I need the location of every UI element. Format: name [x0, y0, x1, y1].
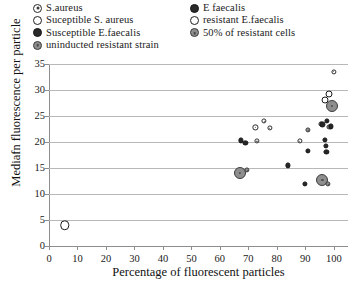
x-tick-label: 60	[215, 254, 226, 265]
legend-item: uninducted resistant strain	[33, 39, 159, 51]
y-tick-mark	[45, 116, 49, 117]
data-point	[326, 100, 338, 112]
legend-column-right: E faecalisresistant E.faecalis 50% of re…	[190, 2, 295, 39]
y-tick-mark	[45, 168, 49, 169]
ring-dot-marker-icon	[33, 4, 42, 13]
x-axis-line	[49, 246, 348, 247]
legend-item: 50% of resistant cells	[190, 27, 295, 39]
data-point	[244, 167, 249, 172]
data-point	[323, 144, 328, 149]
data-point	[328, 124, 333, 129]
gridline	[49, 90, 348, 91]
y-tick-label: 35	[35, 59, 46, 70]
legend-item: Suceptible S. aureus	[33, 14, 159, 26]
y-tick-label: 10	[35, 189, 46, 200]
y-tick-label: 15	[35, 163, 46, 174]
legend-item-label: uninducted resistant strain	[46, 40, 159, 51]
data-point	[306, 148, 311, 153]
y-axis-title: Mediafn fluorescence per particle	[10, 3, 23, 203]
legend-item-label: S.aureus	[46, 3, 83, 14]
x-tick-label: 0	[46, 254, 51, 265]
x-tick-label: 80	[272, 254, 283, 265]
legend-item: E faecalis	[190, 2, 295, 14]
gridline	[49, 220, 348, 221]
data-point	[253, 125, 258, 130]
data-point	[324, 118, 329, 123]
data-point	[60, 220, 70, 230]
gridline	[49, 64, 348, 65]
data-point	[331, 69, 336, 74]
legend-column-left: S.aureusSuceptible S. aureusSusceptible …	[33, 2, 159, 52]
data-point	[324, 149, 329, 154]
legend-item: Susceptible E.faecalis	[33, 27, 159, 39]
gridline	[49, 142, 348, 143]
chart-legend: S.aureusSuceptible S. aureusSusceptible …	[0, 0, 359, 56]
gray-marker-icon	[33, 41, 42, 50]
y-tick-mark	[45, 64, 49, 65]
data-point	[303, 181, 308, 186]
data-point	[267, 125, 272, 130]
data-point	[326, 90, 333, 97]
x-tick-label: 20	[101, 254, 112, 265]
x-tick-label: 90	[300, 254, 311, 265]
y-axis-tick-labels: 05101520253035	[20, 64, 45, 247]
y-tick-label: 30	[35, 85, 46, 96]
gray-marker-icon	[190, 28, 199, 37]
x-tick-label: 10	[72, 254, 83, 265]
y-tick-mark	[45, 220, 49, 221]
x-tick-label: 40	[158, 254, 169, 265]
x-tick-label: 100	[326, 254, 342, 265]
y-tick-mark	[45, 194, 49, 195]
legend-item-label: E faecalis	[203, 3, 245, 14]
data-point	[306, 127, 311, 132]
legend-item-label: Suceptible S. aureus	[46, 15, 133, 26]
legend-item: resistant E.faecalis	[190, 14, 295, 26]
data-point	[325, 182, 330, 187]
plot-area	[49, 64, 348, 246]
x-axis-title: Percentage of fluorescent particles	[49, 266, 348, 279]
data-point	[261, 119, 266, 124]
x-tick-label: 50	[186, 254, 197, 265]
gridline	[49, 194, 348, 195]
y-tick-mark	[45, 142, 49, 143]
legend-item: S.aureus	[33, 2, 159, 14]
hollow-marker-icon	[190, 16, 199, 25]
x-tick-label: 30	[129, 254, 140, 265]
dark-marker-icon	[190, 4, 199, 13]
scatter-plot-figure: S.aureusSuceptible S. aureusSusceptible …	[0, 0, 359, 291]
dark-marker-icon	[33, 28, 42, 37]
legend-item-label: resistant E.faecalis	[203, 15, 284, 26]
gridline	[49, 116, 348, 117]
legend-item-label: Susceptible E.faecalis	[46, 28, 140, 39]
y-tick-label: 20	[35, 137, 46, 148]
x-tick-label: 70	[243, 254, 254, 265]
y-tick-mark	[45, 90, 49, 91]
gridline	[49, 168, 348, 169]
legend-item-label: 50% of resistant cells	[203, 28, 295, 39]
hollow-marker-icon	[33, 16, 42, 25]
y-tick-label: 25	[35, 111, 46, 122]
data-point	[243, 140, 248, 145]
